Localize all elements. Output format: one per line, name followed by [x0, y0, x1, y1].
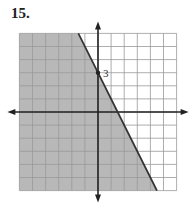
- svg-text:3: 3: [103, 67, 109, 79]
- inequality-graph: 3: [0, 0, 191, 212]
